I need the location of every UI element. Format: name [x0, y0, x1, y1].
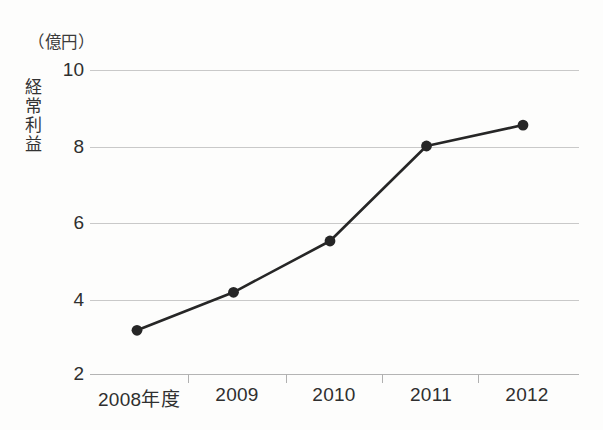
data-point-marker [132, 325, 143, 336]
chart-figure: （億円） 経 常 利 益 10 8 6 4 2 [0, 0, 603, 430]
data-point-marker [421, 141, 432, 152]
series-markers [132, 120, 529, 336]
data-point-marker [228, 287, 239, 298]
series-polyline [137, 125, 523, 330]
data-point-marker [325, 236, 336, 247]
plot-area: 10 8 6 4 2 2008年度 2009 2010 2011 2012 [0, 0, 603, 430]
data-point-marker [518, 120, 529, 131]
data-series-line [0, 0, 603, 430]
